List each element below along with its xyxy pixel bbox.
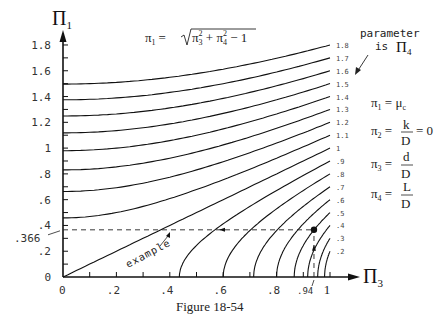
y-tick-label: .2 [38, 245, 51, 258]
curve-pi4-.5 [294, 213, 330, 277]
curve-label: 1.5 [336, 81, 349, 89]
svg-text:k: k [403, 117, 410, 132]
curve-pi4-1.5 [63, 84, 330, 133]
y-axis-title: Π1 [52, 7, 72, 31]
curve-pi4-1.3 [63, 109, 330, 169]
curve-label: .6 [336, 197, 344, 205]
curve-label: .3 [336, 235, 344, 243]
parameter-note: parameter is Π 4 [355, 27, 420, 75]
pi3-example-label: .94 [297, 286, 313, 296]
curve-label: 1.6 [336, 68, 349, 76]
x-ticks: 0.2.4.6.81 [59, 272, 330, 297]
x-tick-label: .8 [267, 284, 280, 297]
y-tick-label: 1.2 [31, 116, 51, 129]
svg-text:π1=: π1= [145, 30, 166, 47]
curve-label: .7 [336, 184, 344, 192]
curve-pi4-.2 [325, 251, 330, 277]
svg-text:D: D [401, 196, 410, 211]
curve-group: 1.81.71.61.51.41.31.21.11.9.8.7.6.5.4.3.… [63, 42, 349, 277]
chart: 1.81.71.61.51.41.31.21.11.9.8.7.6.5.4.3.… [0, 0, 445, 316]
svg-text:is: is [375, 40, 388, 53]
svg-text:π1 = μc: π1 = μc [371, 95, 406, 112]
y-tick-label: .8 [38, 168, 51, 181]
curve-label: 1 [336, 145, 340, 153]
curve-pi4-1.1 [63, 135, 330, 218]
y-tick-label: 1 [44, 142, 51, 155]
x-tick-label: 1 [324, 282, 331, 297]
curve-label: 1.1 [336, 132, 349, 140]
x-tick-label: .4 [160, 284, 174, 297]
svg-text:D: D [401, 133, 410, 148]
example-point [311, 227, 317, 233]
curve-label: 1.7 [336, 55, 349, 63]
curve-pi4-1 [63, 148, 330, 277]
curve-label: 1.4 [336, 94, 349, 102]
svg-text:π3 =: π3 = [371, 156, 392, 173]
arrow-icon [355, 67, 361, 75]
svg-text:π32 + π42 − 1: π32 + π42 − 1 [192, 29, 247, 47]
curve-pi4-1.2 [63, 122, 330, 191]
y-tick-label: .6 [38, 194, 51, 207]
curve-label: .5 [336, 210, 344, 218]
svg-text:4: 4 [407, 47, 412, 57]
curve-label: 1.2 [336, 119, 349, 127]
svg-text:d: d [403, 149, 410, 164]
curve-pi4-1.8 [63, 45, 330, 84]
curve-label: .2 [336, 248, 344, 256]
y-tick-label: 1.6 [31, 65, 51, 78]
curve-label: 1.3 [336, 106, 349, 114]
curve-label: .8 [336, 171, 344, 179]
main-equation: π1= π32 + π42 − 1 [145, 29, 256, 47]
y-tick-label: 1.4 [31, 91, 51, 104]
svg-text:π2 =: π2 = [371, 123, 392, 140]
svg-text:parameter: parameter [360, 27, 420, 40]
figure-caption: Figure 18-54 [176, 299, 244, 314]
svg-text:L: L [403, 179, 411, 194]
curve-label: .4 [336, 222, 344, 230]
definitions: π1 = μc π2 = k D = 0 π3 = d D π4 = L D [371, 95, 433, 211]
y-tick-label: .4 [38, 219, 52, 232]
svg-text:π4 =: π4 = [371, 186, 392, 203]
pi1-example-label: .366 [14, 232, 41, 245]
curve-label: 1.8 [336, 42, 349, 50]
y-tick-label: 0 [44, 271, 51, 284]
curve-label: .9 [336, 158, 344, 166]
x-axis-arrow-icon [348, 274, 360, 281]
curve-pi4-.8 [223, 174, 330, 277]
svg-text:= 0: = 0 [416, 123, 433, 138]
svg-text:Π: Π [396, 39, 407, 55]
y-axis-arrow-icon [60, 30, 67, 42]
x-tick-label: .6 [214, 284, 227, 297]
x-axis-title: Π3 [363, 265, 383, 289]
x-tick-label: .2 [107, 284, 120, 297]
curve-pi4-1.7 [63, 58, 330, 100]
example-label: example [124, 237, 173, 270]
x-tick-label: 0 [59, 284, 66, 297]
arrow-left-icon [219, 228, 225, 232]
y-tick-label: 1.8 [31, 39, 51, 52]
curve-pi4-.6 [277, 200, 330, 277]
curve-pi4-.7 [254, 187, 330, 277]
